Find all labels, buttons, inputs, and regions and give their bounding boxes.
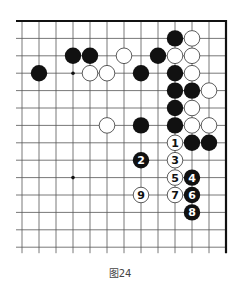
- white-stone: [167, 48, 183, 64]
- move-6-black-stone: 6: [184, 187, 200, 203]
- move-9-white-stone: 9: [133, 187, 149, 203]
- black-stone: [31, 65, 47, 81]
- white-stone: [116, 48, 132, 64]
- move-number: 4: [188, 172, 196, 185]
- move-number: 1: [171, 137, 179, 150]
- move-number: 5: [171, 172, 179, 185]
- white-stone: [184, 118, 200, 134]
- move-3-white-stone: 3: [167, 152, 183, 168]
- go-board: 123456789: [0, 0, 240, 260]
- figure-caption: 图24: [0, 265, 240, 280]
- move-7-white-stone: 7: [167, 187, 183, 203]
- white-stone: [99, 65, 115, 81]
- black-stone: [167, 117, 183, 133]
- black-stone: [167, 82, 183, 98]
- black-stone: [150, 48, 166, 64]
- white-stone: [184, 65, 200, 81]
- move-1-white-stone: 1: [167, 135, 183, 151]
- black-stone: [167, 100, 183, 116]
- white-stone: [82, 65, 98, 81]
- move-4-black-stone: 4: [184, 169, 200, 185]
- move-number: 8: [188, 206, 196, 219]
- move-number: 3: [171, 154, 179, 167]
- black-stone: [133, 65, 149, 81]
- black-stone: [82, 48, 98, 64]
- star-point-icon: [71, 71, 75, 75]
- black-stone: [167, 65, 183, 81]
- white-stone: [184, 100, 200, 116]
- move-number: 7: [171, 189, 179, 202]
- move-8-black-stone: 8: [184, 204, 200, 220]
- black-stone: [65, 48, 81, 64]
- white-stone: [99, 118, 115, 134]
- black-stone: [184, 82, 200, 98]
- move-5-white-stone: 5: [167, 170, 183, 186]
- white-stone: [201, 83, 217, 99]
- move-number: 2: [137, 154, 145, 167]
- black-stone: [167, 30, 183, 46]
- star-point-icon: [71, 176, 75, 180]
- black-stone: [201, 135, 217, 151]
- move-2-black-stone: 2: [133, 152, 149, 168]
- move-number: 6: [188, 189, 196, 202]
- black-stone: [184, 135, 200, 151]
- white-stone: [184, 48, 200, 64]
- white-stone: [201, 118, 217, 134]
- move-number: 9: [137, 189, 145, 202]
- white-stone: [184, 31, 200, 47]
- black-stone: [133, 117, 149, 133]
